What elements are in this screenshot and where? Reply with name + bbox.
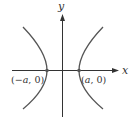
x-axis-label: x bbox=[122, 64, 129, 77]
hyperbola-left-branch bbox=[23, 27, 47, 109]
y-axis-arrow-icon bbox=[60, 14, 65, 21]
vertex-left-point bbox=[45, 69, 49, 73]
hyperbola-right-branch bbox=[79, 27, 103, 109]
hyperbola-diagram: x y (−a, 0) (a, 0) bbox=[0, 0, 132, 125]
x-axis-arrow-icon bbox=[112, 68, 119, 73]
y-axis: y bbox=[57, 0, 65, 117]
y-axis-label: y bbox=[57, 0, 65, 13]
vertex-right-point bbox=[77, 69, 81, 73]
vertex-right-label: (a, 0) bbox=[81, 74, 106, 85]
vertex-left-label: (−a, 0) bbox=[11, 74, 44, 85]
